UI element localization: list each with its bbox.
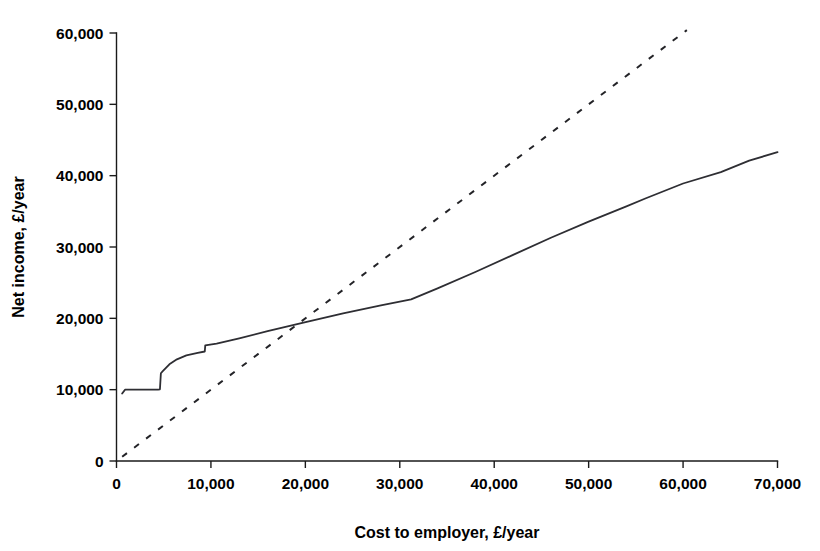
series-gross-reference-line xyxy=(122,30,687,457)
y-tick-label: 0 xyxy=(95,453,104,470)
x-tick-label: 0 xyxy=(112,475,121,492)
tick-label-layer: 010,00020,00030,00040,00050,00060,00070,… xyxy=(56,25,801,493)
chart-plot-area: 010,00020,00030,00040,00050,00060,00070,… xyxy=(0,0,820,551)
axis-layer xyxy=(110,33,778,468)
x-axis-title: Cost to employer, £/year xyxy=(355,524,540,541)
y-tick-label: 40,000 xyxy=(56,167,103,184)
chart-figure: 010,00020,00030,00040,00050,00060,00070,… xyxy=(0,0,820,551)
x-tick-label: 50,000 xyxy=(565,475,612,492)
x-tick-label: 70,000 xyxy=(754,475,801,492)
x-tick-label: 60,000 xyxy=(659,475,706,492)
x-tick-label: 10,000 xyxy=(187,475,234,492)
y-tick-label: 20,000 xyxy=(56,310,103,327)
y-tick-label: 60,000 xyxy=(56,25,103,42)
y-tick-label: 50,000 xyxy=(56,96,103,113)
x-tick-label: 30,000 xyxy=(376,475,423,492)
y-tick-label: 30,000 xyxy=(56,239,103,256)
y-axis-title: Net income, £/year xyxy=(10,176,27,317)
series-layer xyxy=(122,30,777,457)
x-tick-label: 40,000 xyxy=(471,475,518,492)
y-tick-label: 10,000 xyxy=(56,381,103,398)
series-net-income-curve xyxy=(122,152,777,393)
x-tick-label: 20,000 xyxy=(282,475,329,492)
